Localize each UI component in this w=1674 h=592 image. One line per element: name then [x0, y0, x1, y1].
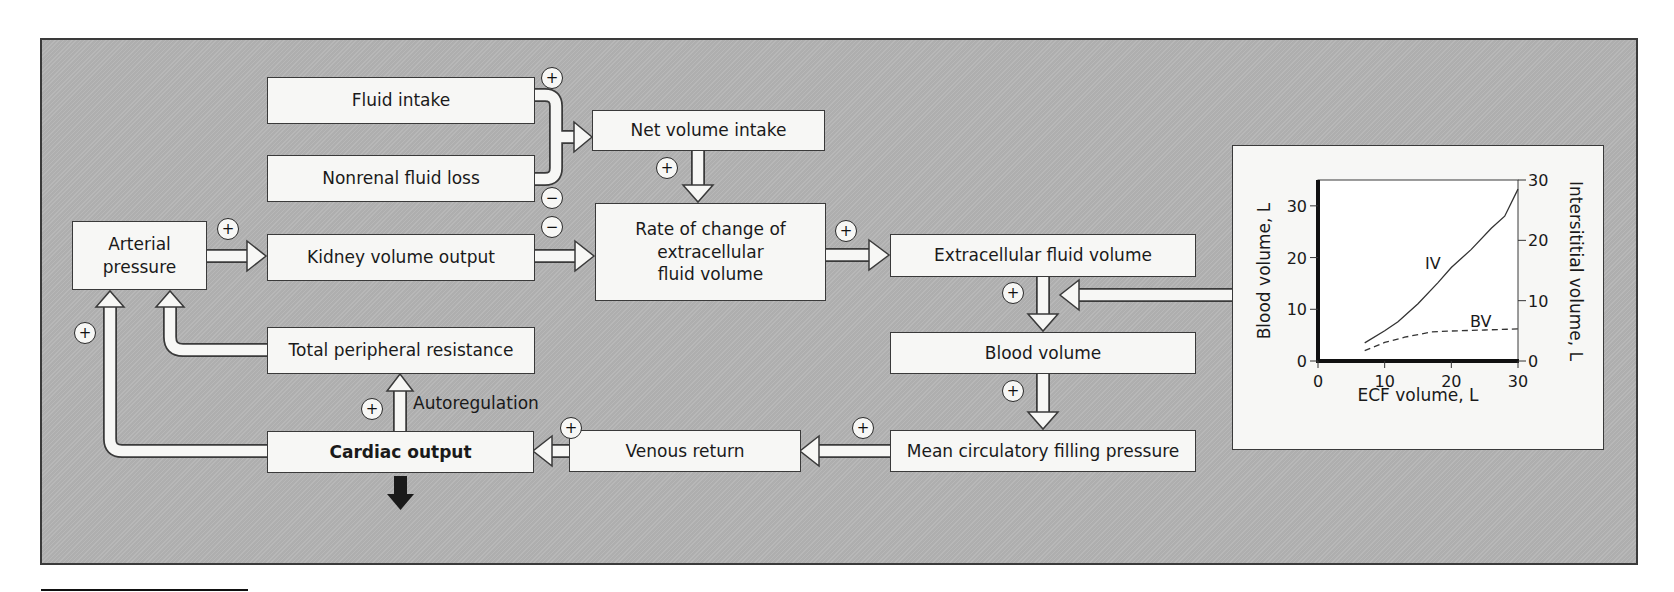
arrow-ecf-to-blood [1028, 275, 1058, 331]
arrow-intake-to-net [534, 95, 592, 179]
plus-sign-autoregulation: + [361, 398, 383, 420]
box-arterial-pressure-line1: Arterial [108, 233, 171, 256]
box-kidney-volume-output-label: Kidney volume output [307, 246, 495, 269]
box-cardiac-output-label: Cardiac output [329, 441, 471, 464]
box-nonrenal-fluid-loss: Nonrenal fluid loss [267, 155, 535, 202]
box-total-peripheral-resistance: Total peripheral resistance [267, 327, 535, 374]
minus-sign-kidney-output: − [541, 216, 563, 238]
box-fluid-intake: Fluid intake [267, 77, 535, 124]
box-rate-of-change-line2: extracellular [657, 241, 763, 264]
plus-sign-net-intake: + [656, 157, 678, 179]
box-tpr-label: Total peripheral resistance [289, 339, 514, 362]
plus-sign-mcfp: + [852, 417, 874, 439]
footer-rule [41, 589, 248, 591]
inset-chart-panel: 0102030 0102030 0102030 IV BV ECF volume… [1232, 145, 1604, 450]
left-axis-ticks: 0102030 [1286, 196, 1317, 370]
plus-sign-venous-return: + [560, 417, 582, 439]
bv-series-label: BV [1470, 312, 1491, 331]
plus-sign-blood-volume: + [1002, 380, 1024, 402]
svg-text:10: 10 [1286, 300, 1306, 319]
svg-text:10: 10 [1528, 291, 1548, 310]
box-ecf-volume-label: Extracellular fluid volume [934, 244, 1152, 267]
box-nonrenal-fluid-loss-label: Nonrenal fluid loss [322, 167, 480, 190]
svg-text:30: 30 [1286, 196, 1306, 215]
arrow-cardiac-to-tpr [387, 374, 413, 432]
box-mean-circulatory-filling-pressure: Mean circulatory filling pressure [890, 430, 1196, 472]
minus-sign-nonrenal-loss: − [541, 187, 563, 209]
arrow-blood-to-mcfp [1028, 372, 1058, 429]
svg-text:0: 0 [1296, 352, 1306, 371]
svg-text:30: 30 [1528, 171, 1548, 190]
autoregulation-label: Autoregulation [413, 393, 539, 413]
cardiac-output-down-arrow [387, 476, 414, 510]
arrow-rate-to-ecf [824, 240, 889, 270]
arrow-pressure-to-kidney [205, 241, 266, 271]
plus-sign-rate-of-change: + [835, 220, 857, 242]
arrow-inset-to-blood [1060, 280, 1233, 310]
arrow-venous-to-cardiac [533, 436, 570, 466]
box-kidney-volume-output: Kidney volume output [267, 234, 535, 281]
box-rate-of-change-line1: Rate of change of [635, 218, 786, 241]
plus-sign-ecf-volume: + [1002, 282, 1024, 304]
plus-sign-arterial-pressure: + [217, 218, 239, 240]
box-venous-return-label: Venous return [626, 440, 745, 463]
svg-text:20: 20 [1286, 248, 1306, 267]
plus-sign-cardiac-to-pressure: + [74, 322, 96, 344]
svg-text:20: 20 [1528, 231, 1548, 250]
box-blood-volume-label: Blood volume [985, 342, 1101, 365]
svg-text:0: 0 [1312, 372, 1322, 391]
x-axis-title: ECF volume, L [1357, 385, 1479, 405]
plot-area [1318, 180, 1518, 361]
arrow-mcfp-to-venous [800, 436, 891, 466]
svg-text:0: 0 [1528, 352, 1538, 371]
plus-sign-fluid-intake: + [541, 67, 563, 89]
right-axis-ticks: 0102030 [1518, 171, 1548, 371]
ecf-volume-chart: 0102030 0102030 0102030 IV BV ECF volume… [1232, 145, 1604, 450]
box-rate-of-change-ecf: Rate of change of extracellular fluid vo… [595, 203, 826, 301]
box-cardiac-output: Cardiac output [267, 431, 534, 473]
y-axis-title-right: Intersititial volume, L [1566, 180, 1586, 361]
box-net-volume-intake-label: Net volume intake [631, 119, 787, 142]
box-venous-return: Venous return [569, 430, 801, 472]
box-arterial-pressure-line2: pressure [103, 256, 176, 279]
svg-text:30: 30 [1507, 372, 1527, 391]
diagram-stage: .pipe { fill: none; stroke: #3a3a3a; str… [0, 0, 1674, 592]
arrow-tpr-to-pressure [156, 291, 268, 350]
arrow-net-to-rate [683, 149, 713, 202]
y-axis-title-left: Blood volume, L [1254, 202, 1274, 339]
arrow-cardiac-to-pressure [96, 291, 268, 451]
box-rate-of-change-line3: fluid volume [658, 263, 763, 286]
arrow-kidney-to-rate [533, 241, 594, 271]
box-blood-volume: Blood volume [890, 332, 1196, 374]
box-arterial-pressure: Arterial pressure [72, 221, 207, 290]
box-fluid-intake-label: Fluid intake [352, 89, 450, 112]
box-extracellular-fluid-volume: Extracellular fluid volume [890, 234, 1196, 277]
box-net-volume-intake: Net volume intake [592, 110, 825, 151]
iv-series-label: IV [1425, 254, 1441, 273]
box-mcfp-label: Mean circulatory filling pressure [907, 440, 1179, 463]
